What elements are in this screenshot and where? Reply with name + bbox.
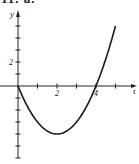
y-axis-label: y	[9, 9, 14, 19]
chart: 242 t y	[0, 0, 139, 164]
ticks: 242	[9, 26, 116, 158]
x-axis-label: t	[133, 86, 136, 96]
y-tick-label: 2	[9, 58, 13, 67]
y-axis-arrow-icon	[16, 10, 20, 17]
x-tick-label: 2	[55, 89, 59, 98]
curve-line	[18, 26, 116, 134]
axes	[0, 10, 137, 158]
